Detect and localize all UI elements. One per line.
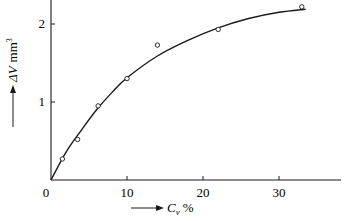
svg-text:Cv%: Cv% <box>167 200 194 217</box>
x-label-unit: % <box>183 200 194 215</box>
x-axis-title: Cv% <box>131 200 194 217</box>
data-point-marker <box>60 157 64 161</box>
data-point-marker <box>125 76 129 80</box>
chart: 0102030 12 Cv% ΔVmm3 <box>0 0 344 221</box>
x-arrowhead-icon <box>156 205 164 211</box>
fitted-curve <box>51 9 306 180</box>
data-point-marker <box>75 137 79 141</box>
data-point-marker <box>155 43 159 47</box>
x-tick-label: 10 <box>121 185 134 200</box>
data-point-marker <box>96 104 100 108</box>
y-label-unit: mm <box>5 42 20 62</box>
data-points <box>60 5 304 162</box>
y-tick-label: 1 <box>39 94 46 109</box>
y-label-symbol: ΔV <box>5 64 20 83</box>
x-label-subscript: v <box>176 207 180 217</box>
y-tick-label: 2 <box>39 16 46 31</box>
data-point-marker <box>300 5 304 9</box>
y-axis-title: ΔVmm3 <box>5 38 20 127</box>
svg-text:ΔVmm3: ΔVmm3 <box>5 38 20 83</box>
y-ticks: 12 <box>39 16 56 109</box>
x-tick-label: 0 <box>43 185 50 200</box>
x-tick-label: 20 <box>197 185 210 200</box>
data-point-marker <box>216 27 220 31</box>
axes <box>51 0 341 180</box>
y-label-exponent: 3 <box>5 38 14 42</box>
x-tick-label: 30 <box>273 185 286 200</box>
x-label-symbol: C <box>167 200 176 215</box>
y-arrowhead-icon <box>10 85 16 93</box>
